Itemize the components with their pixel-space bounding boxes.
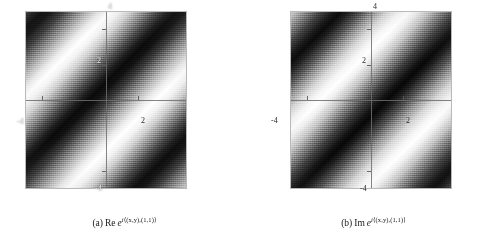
plot-b-density-field [291, 12, 451, 188]
plot-b-y-label-2: 2 [362, 57, 366, 65]
plot-b-x-tick-2 [403, 96, 404, 100]
plot-a-y-tick--4 [102, 171, 106, 172]
plot-a-band-layer [26, 12, 186, 188]
plot-a-y-label-4: 4 [108, 3, 112, 11]
plot-a-y-tick-4 [102, 29, 106, 30]
plot-a-y-label-2: 2 [97, 57, 101, 65]
plot-a-density-field [26, 12, 186, 188]
caption-a-tag: (a) [92, 218, 103, 228]
subfigure-a: -4 2 4 2 -4 (a)Reei⟨(x,y),(1,1)⟩ [0, 0, 249, 251]
plot-a-x-tick-2 [138, 96, 139, 100]
subfigure-b: -4 2 4 2 -4 (b)Imei⟨(x,y),(1,1)⟩ [249, 0, 498, 251]
plot-b-x-label--4: -4 [271, 117, 278, 125]
caption-a: (a)Reei⟨(x,y),(1,1)⟩ [0, 216, 249, 229]
caption-b: (b)Imei⟨(x,y),(1,1)⟩ [249, 216, 498, 229]
plot-b-y-tick-2 [367, 65, 371, 66]
caption-b-exponent: i⟨(x,y),(1,1)⟩ [371, 216, 406, 223]
plot-b-x-label-2: 2 [406, 117, 410, 125]
caption-a-operator: Re [105, 218, 116, 228]
plot-a-x-tick--4 [42, 96, 43, 100]
plot-b-y-label-4: 4 [373, 3, 377, 11]
caption-b-operator: Im [354, 218, 365, 228]
caption-a-exponent: i⟨(x,y),(1,1)⟩ [122, 216, 157, 223]
caption-a-exponent-body: ⟨(x,y),(1,1)⟩ [124, 216, 157, 223]
plot-a-y-label--4: -4 [95, 185, 102, 193]
figure-root: -4 2 4 2 -4 (a)Reei⟨(x,y),(1,1)⟩ -4 2 4 [0, 0, 498, 251]
plot-a-x-label-2: 2 [141, 117, 145, 125]
caption-b-tag: (b) [341, 218, 352, 228]
caption-b-exponent-body: ⟨(x,y),(1,1)⟩ [373, 216, 406, 223]
plot-b-band-layer [291, 12, 451, 188]
plot-b-frame [290, 11, 452, 189]
plot-a-y-tick-2 [102, 65, 106, 66]
plot-a-frame [25, 11, 187, 189]
plot-b-x-tick--4 [307, 96, 308, 100]
plot-b-y-label--4: -4 [360, 185, 367, 193]
plot-b-y-tick--4 [367, 171, 371, 172]
plot-b-y-tick-4 [367, 29, 371, 30]
plot-a-x-label--4: -4 [17, 118, 24, 126]
